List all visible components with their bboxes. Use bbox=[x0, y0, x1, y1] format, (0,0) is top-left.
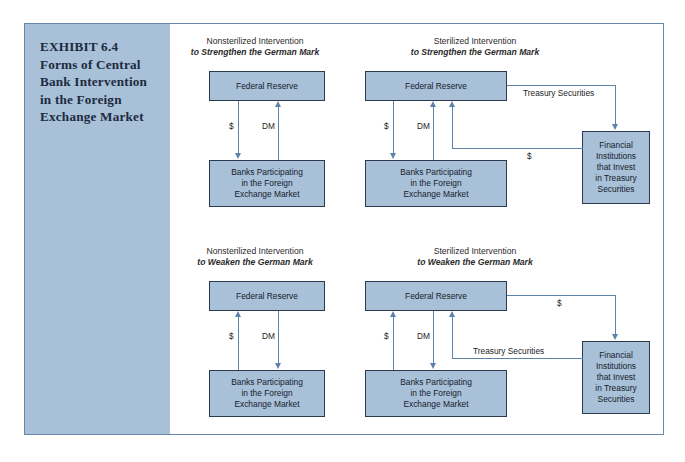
node-label-line-2: Institutions bbox=[595, 151, 636, 162]
node-label-line-5: Securities bbox=[595, 394, 636, 405]
heading-line-1: Sterilized Intervention bbox=[355, 246, 595, 257]
node-federal-reserve[interactable]: Federal Reserve bbox=[209, 281, 325, 311]
heading-line-1: Nonsterilized Intervention bbox=[181, 246, 329, 257]
heading-line-2: to Weaken the German Mark bbox=[181, 257, 329, 268]
node-banks-participating[interactable]: Banks Participating in the Foreign Excha… bbox=[365, 370, 507, 417]
heading-line-2: to Strengthen the German Mark bbox=[355, 47, 595, 58]
node-label-line-3: that Invest bbox=[595, 162, 636, 173]
node-banks-participating[interactable]: Banks Participating in the Foreign Excha… bbox=[209, 370, 325, 417]
flow-label-dm: DM bbox=[417, 121, 430, 131]
node-federal-reserve[interactable]: Federal Reserve bbox=[209, 71, 325, 101]
flow-line-dm bbox=[433, 311, 434, 364]
flow-line-dollar bbox=[238, 101, 239, 154]
flow-label-dollar-fi: $ bbox=[557, 298, 562, 308]
node-label-line-3: Exchange Market bbox=[400, 399, 472, 410]
flow-line-dollar-banks bbox=[393, 317, 394, 370]
node-label-line-2: in the Foreign bbox=[231, 388, 303, 399]
heading-line-1: Sterilized Intervention bbox=[355, 36, 595, 47]
node-banks-participating[interactable]: Banks Participating in the Foreign Excha… bbox=[365, 160, 507, 207]
quadrant-heading: Nonsterilized Intervention to Strengthen… bbox=[181, 36, 329, 58]
node-label-line-5: Securities bbox=[595, 184, 636, 195]
heading-line-1: Nonsterilized Intervention bbox=[181, 36, 329, 47]
flow-label-dollar: $ bbox=[229, 121, 234, 131]
flow-arrowhead-dm bbox=[275, 101, 281, 107]
node-label: Federal Reserve bbox=[236, 81, 298, 92]
flow-line-treasury-h bbox=[452, 358, 583, 359]
flow-line-dm bbox=[278, 107, 279, 160]
flow-line-dm bbox=[278, 311, 279, 364]
flow-label-treasury: Treasury Securities bbox=[473, 346, 544, 356]
node-federal-reserve[interactable]: Federal Reserve bbox=[365, 71, 507, 101]
flow-line-dm bbox=[433, 107, 434, 160]
node-label: Federal Reserve bbox=[405, 291, 467, 302]
node-label-line-2: in the Foreign bbox=[231, 178, 303, 189]
exhibit-title-line-1: EXHIBIT 6.4 bbox=[40, 38, 165, 56]
flow-line-dollar-fi-h bbox=[452, 148, 583, 149]
quadrant-nonsterilized-strengthen: Nonsterilized Intervention to Strengthen… bbox=[181, 36, 329, 222]
node-label: Federal Reserve bbox=[236, 291, 298, 302]
quadrant-sterilized-strengthen: Sterilized Intervention to Strengthen th… bbox=[345, 36, 661, 226]
flow-label-dm: DM bbox=[417, 331, 430, 341]
flow-label-dm: DM bbox=[262, 331, 275, 341]
exhibit-title-line-2: Forms of Central bbox=[40, 56, 165, 74]
exhibit-title-line-3: Bank Intervention bbox=[40, 73, 165, 91]
flow-line-dollar-banks bbox=[393, 101, 394, 154]
node-label-line-1: Financial bbox=[595, 350, 636, 361]
flow-arrowhead-dm bbox=[430, 363, 436, 369]
flow-line-treasury-v bbox=[452, 317, 453, 359]
node-label-line-3: Exchange Market bbox=[400, 189, 472, 200]
flow-arrowhead-dm bbox=[275, 363, 281, 369]
node-label-line-1: Banks Participating bbox=[400, 377, 472, 388]
node-federal-reserve[interactable]: Federal Reserve bbox=[365, 281, 507, 311]
flow-label-dollar-banks: $ bbox=[384, 121, 389, 131]
quadrant-heading: Sterilized Intervention to Strengthen th… bbox=[355, 36, 595, 58]
node-label-line-2: in the Foreign bbox=[400, 388, 472, 399]
flow-line-treasury-h bbox=[507, 85, 616, 86]
exhibit-title: EXHIBIT 6.4 Forms of Central Bank Interv… bbox=[40, 38, 165, 126]
node-label-line-3: Exchange Market bbox=[231, 399, 303, 410]
exhibit-title-line-4: in the Foreign bbox=[40, 91, 165, 109]
flow-arrowhead-dollar bbox=[235, 311, 241, 317]
heading-line-2: to Weaken the German Mark bbox=[355, 257, 595, 268]
flow-arrowhead-dollar-banks bbox=[390, 153, 396, 159]
flow-arrowhead-dollar-fi bbox=[612, 334, 618, 340]
flow-line-treasury-v bbox=[615, 85, 616, 125]
node-financial-institutions[interactable]: Financial Institutions that Invest in Tr… bbox=[582, 131, 650, 204]
node-label-line-4: in Treasury bbox=[595, 173, 636, 184]
exhibit-frame: EXHIBIT 6.4 Forms of Central Bank Interv… bbox=[24, 23, 664, 435]
quadrant-nonsterilized-weaken: Nonsterilized Intervention to Weaken the… bbox=[181, 246, 329, 432]
node-label-line-2: in the Foreign bbox=[400, 178, 472, 189]
quadrant-heading: Sterilized Intervention to Weaken the Ge… bbox=[355, 246, 595, 268]
node-label-line-2: Institutions bbox=[595, 361, 636, 372]
node-label-line-3: Exchange Market bbox=[231, 189, 303, 200]
quadrant-sterilized-weaken: Sterilized Intervention to Weaken the Ge… bbox=[345, 246, 661, 436]
quadrant-heading: Nonsterilized Intervention to Weaken the… bbox=[181, 246, 329, 268]
exhibit-title-line-5: Exchange Market bbox=[40, 108, 165, 126]
flow-label-dollar-banks: $ bbox=[384, 331, 389, 341]
flow-arrowhead-dm bbox=[430, 101, 436, 107]
node-label-line-4: in Treasury bbox=[595, 383, 636, 394]
flow-label-dm: DM bbox=[262, 121, 275, 131]
node-label-line-1: Banks Participating bbox=[231, 167, 303, 178]
node-banks-participating[interactable]: Banks Participating in the Foreign Excha… bbox=[209, 160, 325, 207]
flow-arrowhead-treasury bbox=[612, 124, 618, 130]
flow-label-dollar: $ bbox=[229, 331, 234, 341]
flow-line-dollar-fi-v bbox=[615, 295, 616, 335]
flow-arrowhead-dollar-fi bbox=[449, 101, 455, 107]
flow-arrowhead-treasury bbox=[449, 311, 455, 317]
node-label-line-1: Financial bbox=[595, 140, 636, 151]
flow-line-dollar-fi-h bbox=[507, 295, 616, 296]
heading-line-2: to Strengthen the German Mark bbox=[181, 47, 329, 58]
flow-line-dollar-fi-v bbox=[452, 107, 453, 149]
node-label: Federal Reserve bbox=[405, 81, 467, 92]
node-financial-institutions[interactable]: Financial Institutions that Invest in Tr… bbox=[582, 341, 650, 414]
node-label-line-1: Banks Participating bbox=[231, 377, 303, 388]
flow-line-dollar bbox=[238, 317, 239, 370]
node-label-line-3: that Invest bbox=[595, 372, 636, 383]
node-label-line-1: Banks Participating bbox=[400, 167, 472, 178]
flow-label-dollar-fi: $ bbox=[527, 151, 532, 161]
flow-arrowhead-dollar bbox=[235, 153, 241, 159]
flow-label-treasury: Treasury Securities bbox=[523, 88, 594, 98]
exhibit-caption-panel: EXHIBIT 6.4 Forms of Central Bank Interv… bbox=[25, 24, 170, 434]
flow-arrowhead-dollar-banks bbox=[390, 311, 396, 317]
